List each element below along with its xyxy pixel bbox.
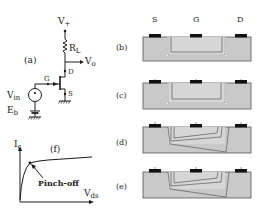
terminal-label-g: G (193, 15, 199, 24)
load-label: RL (69, 43, 81, 55)
contact-s (149, 124, 161, 128)
contact-g (190, 34, 202, 38)
panel-label-a: (a) (24, 55, 36, 65)
output-arrow-icon (80, 60, 84, 64)
gate-label: G (44, 75, 50, 83)
pinch-off-point (29, 162, 32, 165)
y-axis-label: Ic (14, 139, 22, 151)
cross-section-c: (c) (116, 79, 251, 109)
panel-label-c: (c) (116, 91, 127, 100)
x-axis-arrow-icon (89, 200, 94, 204)
cross-section-d: (d) (116, 122, 251, 153)
cross-section-e: (e) (116, 167, 251, 198)
contact-s (149, 34, 161, 38)
panel-label-b: (b) (116, 43, 127, 52)
contact-s (149, 169, 161, 173)
contact-g (190, 169, 202, 173)
contact-s (149, 80, 161, 84)
contact-d (235, 34, 247, 38)
contact-g (190, 80, 202, 84)
terminal-labels: S G D (152, 15, 243, 24)
x-axis-label: Vds (83, 188, 99, 200)
bias-label: Eb (7, 105, 19, 117)
input-label: Vin (6, 90, 21, 102)
input-source-icon (29, 89, 42, 102)
gate-arrow-icon (53, 82, 58, 86)
source-label: S (68, 90, 73, 98)
pinch-off-annotation: Pinch-off (38, 178, 79, 188)
terminal-label-d: D (237, 15, 243, 24)
panel-label-d: (d) (116, 138, 127, 147)
panel-label-e: (e) (116, 182, 127, 191)
contact-g (190, 124, 202, 128)
terminal-label-s: S (152, 15, 157, 24)
supply-label: V+ (57, 16, 71, 28)
circuit-schematic: V+ RL Vo D (a) S (6, 16, 96, 120)
load-resistor (63, 39, 67, 53)
cross-section-b: (b) (116, 34, 251, 61)
output-label: Vo (84, 56, 96, 68)
panel-label-f: (f) (50, 144, 60, 154)
drain-label: D (68, 68, 74, 76)
iv-curve-plot: Ic (f) Pinch-off Vds (14, 139, 99, 204)
jfet-figure: V+ RL Vo D (a) S (0, 0, 266, 214)
contact-d (235, 80, 247, 84)
contact-d (235, 124, 247, 128)
contact-d (235, 169, 247, 173)
